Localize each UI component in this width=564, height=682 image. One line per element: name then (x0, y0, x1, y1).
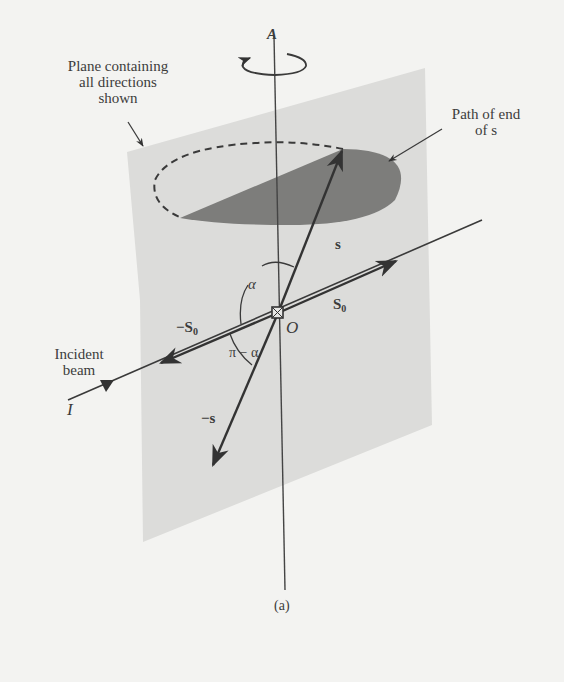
figure-canvas: Plane containing all directions shown Pa… (0, 0, 564, 682)
path-label: Path of end of s (430, 106, 542, 138)
incident-label-line: beam (38, 362, 120, 378)
incident-beam-label: Incident beam (38, 346, 120, 378)
axis-a-label: A (267, 26, 277, 42)
neg-s-label: −s (201, 410, 215, 426)
s0-label: S0 (333, 296, 346, 317)
plane-label-pointer (128, 122, 143, 146)
neg-s0-sub: 0 (193, 326, 198, 337)
figure-caption: (a) (274, 598, 290, 614)
s-label: s (335, 236, 341, 252)
s0-sub: 0 (341, 303, 346, 314)
plane-label-line: shown (40, 90, 196, 106)
plane-label-line: all directions (40, 74, 196, 90)
path-label-line: of s (430, 122, 542, 138)
plane-label-line: Plane containing (40, 58, 196, 74)
incident-label-line: Incident (38, 346, 120, 362)
origin-label: O (286, 320, 298, 336)
path-label-line: Path of end (430, 106, 542, 122)
beam-source-label: I (67, 402, 73, 418)
alpha-label: α (248, 276, 256, 292)
pi-minus-alpha-label: π − α (229, 345, 258, 361)
plane-label: Plane containing all directions shown (40, 58, 196, 106)
neg-s0-label: −S0 (176, 319, 198, 340)
neg-s0-main: −S (176, 319, 193, 335)
